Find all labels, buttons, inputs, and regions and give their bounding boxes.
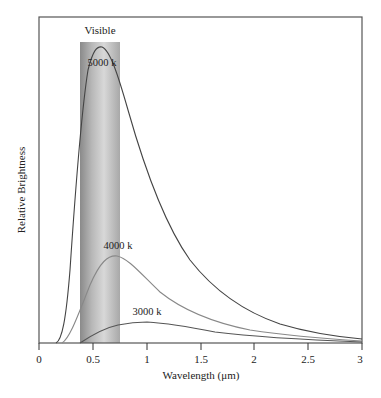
label-4000k: 4000 k — [104, 240, 134, 251]
blackbody-chart: 0 0.5 1 1.5 2 2.5 3 Wavelength (μm) Rela… — [0, 0, 381, 398]
x-tick-label: 2 — [251, 353, 257, 365]
label-5000k: 5000 k — [88, 57, 118, 68]
x-axis-label: Wavelength (μm) — [163, 369, 240, 382]
x-tick-label: 0.5 — [86, 353, 100, 365]
x-tick-label: 0 — [36, 353, 42, 365]
x-tick-label: 1.5 — [194, 353, 208, 365]
x-tick-label: 2.5 — [301, 353, 315, 365]
y-axis-label: Relative Brightness — [15, 147, 27, 233]
visible-label: Visible — [84, 24, 115, 36]
x-tick-label: 3 — [357, 353, 363, 365]
x-ticks — [39, 343, 362, 350]
curve-3000k — [80, 322, 362, 343]
label-3000k: 3000 k — [133, 306, 163, 317]
x-tick-label: 1 — [144, 353, 150, 365]
